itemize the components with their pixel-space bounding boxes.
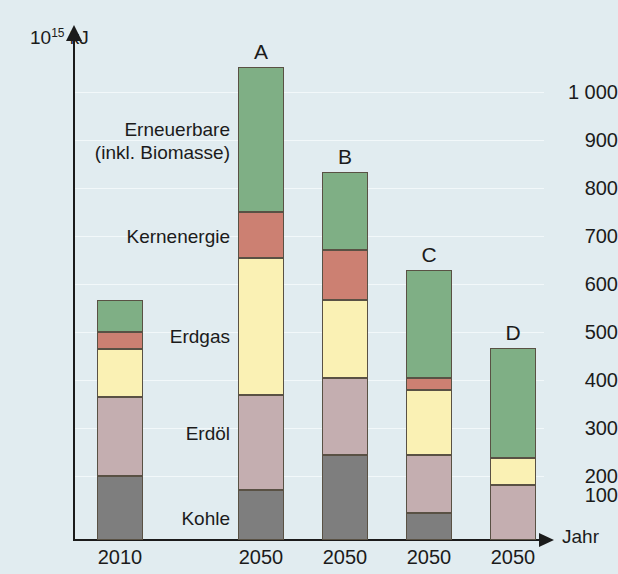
y-axis-title-unit: kJ (65, 27, 89, 48)
bar-segment-erdoel[interactable] (238, 395, 284, 490)
gridline (74, 284, 544, 285)
stacked-bar-chart: 1015 kJ Jahr 1 000 900 800 700 600 500 4… (0, 0, 618, 574)
bar-2050-d[interactable] (490, 348, 536, 540)
bar-segment-erdoel[interactable] (322, 378, 368, 455)
y-axis-title: 1015 kJ (30, 26, 89, 49)
x-tick-label-2: 2050 (323, 546, 368, 569)
y-axis (73, 38, 75, 541)
bar-segment-erneuerbare[interactable] (406, 270, 452, 378)
bar-segment-erdgas[interactable] (97, 349, 143, 397)
y-tick-label-600: 600 (552, 273, 618, 296)
y-axis-title-exponent: 15 (51, 26, 64, 40)
bar-segment-kernenergie[interactable] (97, 332, 143, 349)
y-tick-label-800: 800 (552, 177, 618, 200)
x-tick-label-4: 2050 (491, 546, 536, 569)
series-label-erneuerbare-line2: (inkl. Biomasse) (80, 142, 230, 165)
bar-annotation-c: C (421, 243, 436, 267)
bar-segment-erneuerbare[interactable] (97, 300, 143, 332)
bar-segment-erdoel[interactable] (97, 397, 143, 476)
bar-segment-kohle[interactable] (406, 513, 452, 540)
bar-annotation-b: B (338, 145, 352, 169)
bar-segment-kohle[interactable] (97, 476, 143, 540)
x-axis (73, 539, 540, 541)
gridline (74, 188, 544, 189)
bar-segment-kohle[interactable] (322, 455, 368, 540)
series-label-erneuerbare: Erneuerbare (inkl. Biomasse) (80, 119, 230, 165)
x-axis-title: Jahr (562, 526, 599, 548)
bar-2050-b[interactable] (322, 172, 368, 540)
bar-2050-c[interactable] (406, 270, 452, 540)
bar-segment-erneuerbare[interactable] (238, 67, 284, 212)
x-tick-label-1: 2050 (239, 546, 284, 569)
bar-segment-erdgas[interactable] (238, 258, 284, 395)
bar-segment-erneuerbare[interactable] (490, 348, 536, 458)
series-label-erneuerbare-line1: Erneuerbare (80, 119, 230, 142)
gridline (74, 476, 544, 477)
y-tick-label-400: 400 (552, 369, 618, 392)
y-tick-label-100: 100 (552, 484, 618, 507)
bar-annotation-a: A (254, 40, 268, 64)
bar-segment-erdgas[interactable] (322, 300, 368, 378)
bar-segment-erneuerbare[interactable] (322, 172, 368, 250)
y-tick-label-500: 500 (552, 321, 618, 344)
y-tick-label-900: 900 (552, 129, 618, 152)
bar-segment-erdoel[interactable] (490, 485, 536, 540)
bar-segment-erdoel[interactable] (406, 455, 452, 513)
bar-segment-kohle[interactable] (238, 490, 284, 540)
series-label-kernenergie: Kernenergie (80, 226, 230, 248)
y-tick-label-300: 300 (552, 417, 618, 440)
bar-segment-erdgas[interactable] (490, 458, 536, 485)
y-tick-label-1000: 1 000 (552, 81, 618, 104)
bar-segment-kernenergie[interactable] (406, 378, 452, 390)
y-axis-title-mantissa: 10 (30, 27, 51, 48)
bar-2010[interactable] (97, 300, 143, 540)
bar-segment-kernenergie[interactable] (322, 250, 368, 300)
y-tick-label-700: 700 (552, 225, 618, 248)
bar-2050-a[interactable] (238, 67, 284, 540)
bar-segment-erdgas[interactable] (406, 390, 452, 455)
x-tick-label-3: 2050 (407, 546, 452, 569)
bar-segment-kernenergie[interactable] (238, 212, 284, 258)
x-axis-arrow-icon (539, 533, 554, 547)
gridline (74, 380, 544, 381)
bar-annotation-d: D (505, 321, 520, 345)
gridline (74, 92, 544, 93)
x-tick-label-0: 2010 (98, 546, 143, 569)
